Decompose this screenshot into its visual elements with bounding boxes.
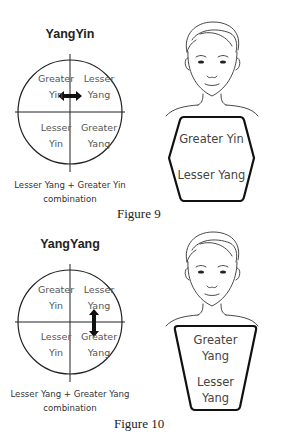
trapezoid-body-shape (0, 0, 283, 435)
figure-10-label: Figure 10 (114, 416, 164, 432)
body-text-line: Lesser (175, 374, 256, 390)
body-text-line: Greater (175, 332, 256, 348)
body-text-line: Yang (175, 348, 256, 364)
trapezoid-label-top: Greater Yang (175, 332, 256, 364)
trapezoid-label-bottom: Lesser Yang (175, 374, 256, 406)
body-text-line: Yang (175, 390, 256, 406)
